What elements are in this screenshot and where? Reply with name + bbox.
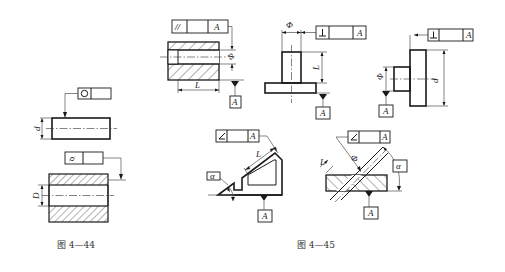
figure-4-45: // A Φ L A [160,20,473,222]
datum-ref-label: A [381,132,388,142]
alpha-label: α [210,171,215,181]
caption-fig-4-45: 图 4—45 [297,240,335,250]
figure-4-44: d ⌭ D [31,88,126,222]
dimension-phi-label: Φ [226,53,236,60]
datum-ref-label: A [249,131,256,141]
dimension-d-label: d [430,78,440,83]
datum-triangle-icon [319,94,327,100]
dimension-L-label: L [319,157,325,167]
roundness-frame [78,88,111,99]
angular-bracket: A L α A [207,130,282,222]
dimension-L-label: L [311,65,321,71]
dimension-phi-label: Φ [375,73,385,80]
datum-ref-label: A [356,28,363,38]
dimension-d-label: d [32,126,42,131]
datum-triangle-icon [260,195,268,201]
dimension-phi-label: Φ [286,20,293,30]
datum-A-label: A [319,108,326,118]
datum-triangle-icon [365,191,373,197]
datum-A-label: A [231,97,238,107]
caption-fig-4-44: 图 4—44 [57,240,95,250]
parallelism-frame [172,20,228,33]
datum-A-label: A [261,211,268,221]
alpha-label: α [396,161,401,171]
datum-ref-label: A [213,22,220,32]
perpendicular-post: A Φ L A [265,20,366,119]
datum-ref-label: A [465,30,472,40]
tube-wall-bottom [49,206,108,222]
datum-A-label: A [382,106,389,116]
parallelism-block: // A Φ L A [160,20,244,108]
perpendicular-disk: A d Φ A [375,29,473,117]
datum-A-label: A [367,208,374,218]
dimension-L-label: L [255,149,261,159]
cylindricity-symbol-icon: ⌭ [69,154,76,164]
tolerance-drawing: d ⌭ D // [0,0,505,272]
angular-hole-plate: A Φ L α A [319,131,407,219]
cylindricity-tube: ⌭ D [31,152,126,222]
dimension-L-label: L [194,80,200,90]
roundness-cylinder: d [32,88,117,139]
tube-wall-top [49,174,108,185]
dimension-D-label: D [31,192,41,200]
dimension-phi-label: Φ [348,152,360,164]
datum-triangle-icon [231,81,239,87]
datum-triangle-icon [382,91,390,97]
